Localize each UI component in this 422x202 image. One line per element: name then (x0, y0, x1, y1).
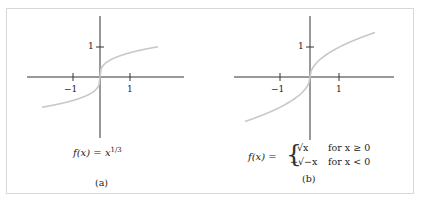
tick-label-b-1y: 1 (298, 41, 304, 51)
formula-a-exp: 1/3 (111, 146, 122, 154)
formula-b-case1-cond: for x ≥ 0 (328, 142, 370, 153)
caption-b: (b) (302, 173, 316, 184)
tick-label-a-neg1: −1 (64, 84, 77, 94)
tick-label-b-1x: 1 (336, 84, 342, 94)
formula-b-lhs: f(x) = (248, 151, 277, 162)
caption-a: (a) (95, 177, 108, 188)
formula-a-lhs: f(x) = (73, 147, 105, 158)
tick-label-a-1y: 1 (88, 41, 94, 51)
tick-label-b-neg1: −1 (271, 84, 284, 94)
formula-b-case2-cond: for x < 0 (328, 156, 370, 167)
panel-a-axes (27, 16, 184, 138)
formula-b-case2-expr: −√−x (290, 156, 317, 167)
formula-b-case1-expr: √x (297, 142, 308, 153)
tick-label-a-1x: 1 (127, 84, 133, 94)
formula-a: f(x) = x1/3 (73, 146, 122, 158)
plots-svg (0, 0, 422, 202)
